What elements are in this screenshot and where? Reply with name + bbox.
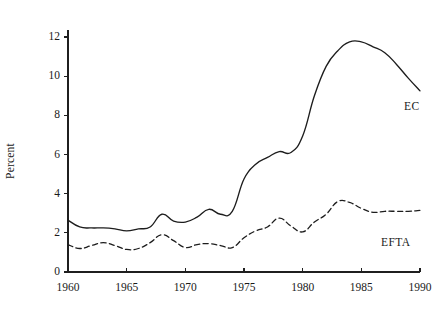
series-line-ec xyxy=(68,41,420,231)
y-axis-ticks xyxy=(64,37,68,272)
y-tick-label-10: 10 xyxy=(36,70,60,82)
series-label-efta: EFTA xyxy=(381,236,410,248)
y-tick-label-2: 2 xyxy=(36,227,60,239)
series-line-efta xyxy=(68,200,420,250)
x-tick-label-1980: 1980 xyxy=(291,282,314,294)
x-axis-ticks xyxy=(68,268,420,272)
y-tick-label-12: 12 xyxy=(36,31,60,43)
y-tick-label-6: 6 xyxy=(36,149,60,161)
y-tick-label-0: 0 xyxy=(36,266,60,278)
x-tick-label-1965: 1965 xyxy=(115,282,138,294)
y-axis-title: Percent xyxy=(4,143,16,179)
plot-svg xyxy=(0,0,447,309)
series-label-ec: EC xyxy=(404,100,420,112)
x-tick-label-1990: 1990 xyxy=(409,282,432,294)
y-tick-label-8: 8 xyxy=(36,110,60,122)
chart-figure: 024681012 1960196519701975198019851990 P… xyxy=(0,0,447,309)
x-tick-label-1975: 1975 xyxy=(233,282,256,294)
y-tick-label-4: 4 xyxy=(36,188,60,200)
axis-group xyxy=(64,30,420,272)
x-tick-label-1970: 1970 xyxy=(174,282,197,294)
series-group xyxy=(68,41,420,250)
x-tick-label-1960: 1960 xyxy=(57,282,80,294)
x-tick-label-1985: 1985 xyxy=(350,282,373,294)
